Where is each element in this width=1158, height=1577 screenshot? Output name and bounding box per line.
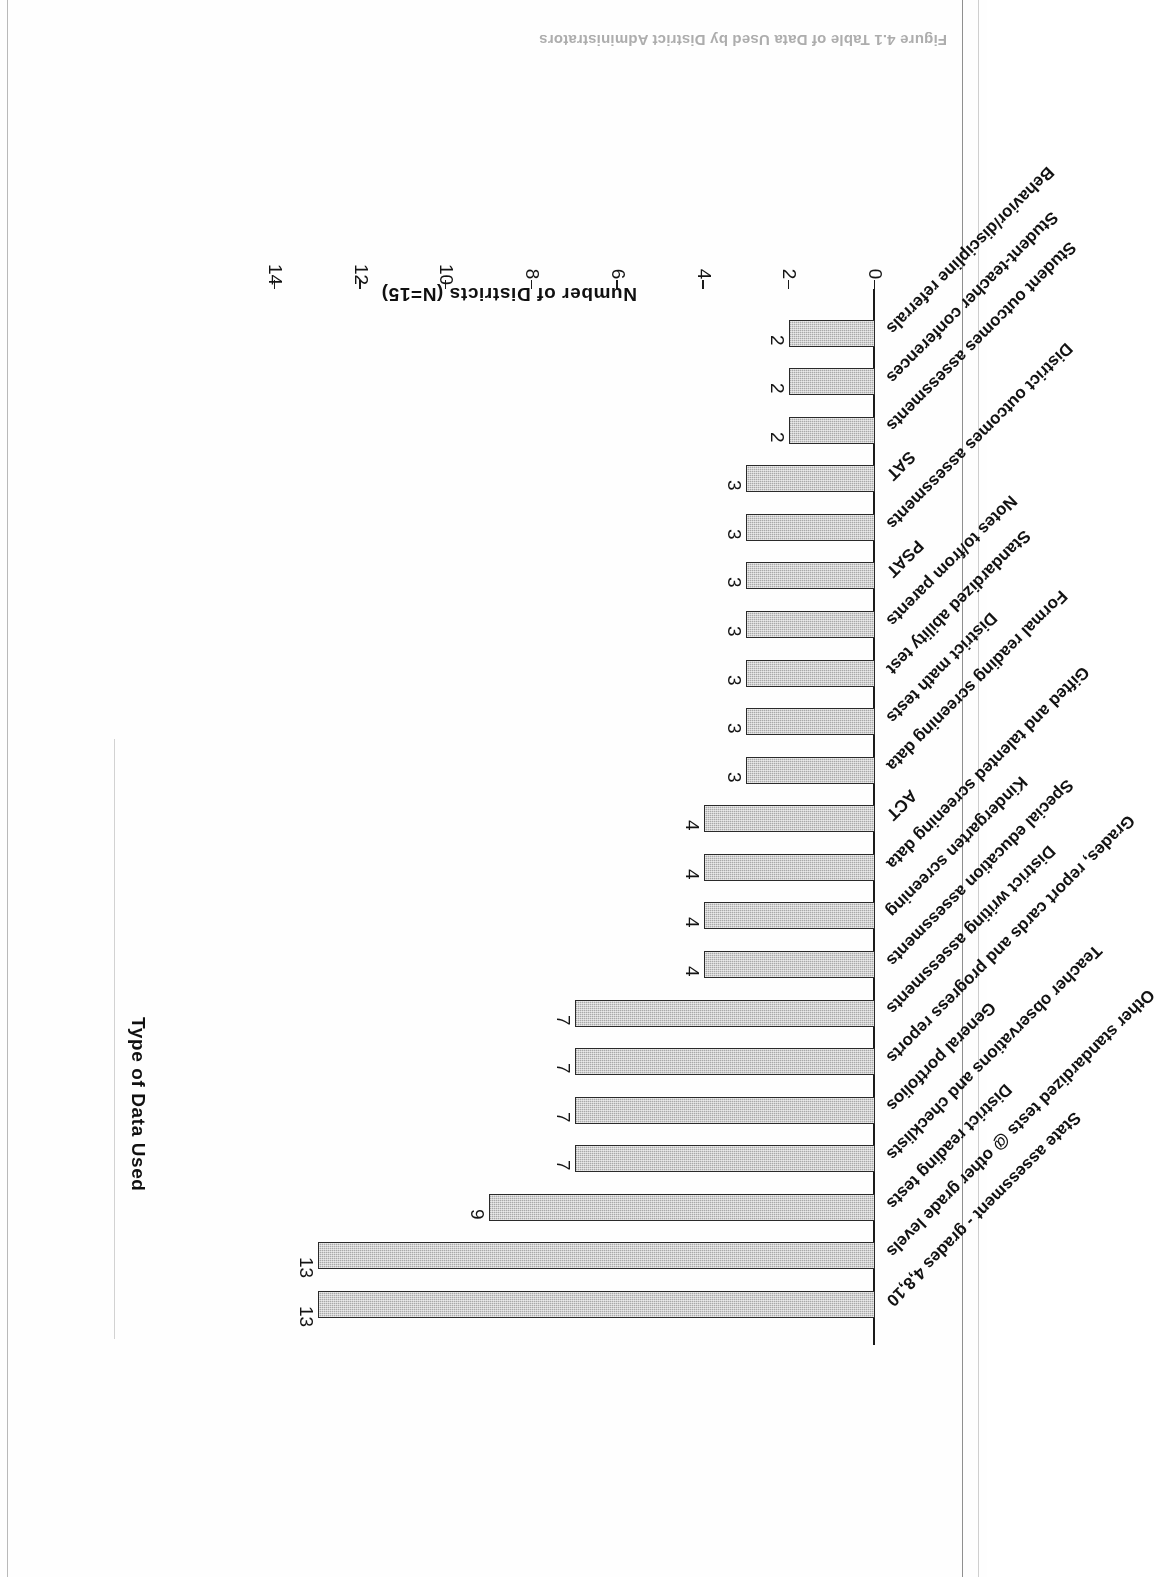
bar xyxy=(318,1242,875,1269)
bar xyxy=(704,902,875,929)
bar-value-label: 7 xyxy=(552,1112,574,1123)
bar-row: 2 xyxy=(275,356,875,405)
bar xyxy=(318,1291,875,1318)
tick-label: 14 xyxy=(264,264,286,284)
bar-value-label: 3 xyxy=(723,480,745,491)
bar xyxy=(789,417,875,444)
bar xyxy=(746,660,875,687)
bar-value-label: 7 xyxy=(552,1015,574,1026)
bar xyxy=(489,1194,875,1221)
bar xyxy=(704,805,875,832)
bar xyxy=(704,854,875,881)
tick-label: 10 xyxy=(435,264,457,284)
bar xyxy=(746,514,875,541)
bar-row: 2 xyxy=(275,307,875,356)
bar-value-label: 2 xyxy=(766,432,788,443)
bar-value-label: 3 xyxy=(723,723,745,734)
category-label: ACT xyxy=(882,785,921,824)
bar xyxy=(575,1145,875,1172)
plot-border-rule xyxy=(114,739,115,1339)
bar-value-label: 2 xyxy=(766,335,788,346)
bar-row: 3 xyxy=(275,598,875,647)
bar-value-label: 9 xyxy=(466,1209,488,1220)
bar xyxy=(789,368,875,395)
bar-row: 7 xyxy=(275,987,875,1036)
bar-value-label: 3 xyxy=(723,626,745,637)
bar-row: 3 xyxy=(275,744,875,793)
bar xyxy=(746,611,875,638)
bar-value-label: 3 xyxy=(723,675,745,686)
figure-caption: Figure 4.1 Table of Data Used by Distric… xyxy=(539,32,947,49)
bar-row: 3 xyxy=(275,696,875,745)
bar xyxy=(704,951,875,978)
bar xyxy=(789,320,875,347)
bar-row: 13 xyxy=(275,1230,875,1279)
tick-label: 12 xyxy=(350,264,372,284)
bar-row: 9 xyxy=(275,1181,875,1230)
bar-value-label: 7 xyxy=(552,1160,574,1171)
bar-row: 4 xyxy=(275,890,875,939)
bar-value-label: 3 xyxy=(723,577,745,588)
bar-row: 7 xyxy=(275,1133,875,1182)
bar-row: 4 xyxy=(275,841,875,890)
tick-label: 8 xyxy=(521,264,543,284)
bar-row: 3 xyxy=(275,647,875,696)
bar xyxy=(746,465,875,492)
bar-row: 2 xyxy=(275,404,875,453)
bar-value-label: 13 xyxy=(295,1257,317,1278)
category-label: PSAT xyxy=(882,536,927,581)
bar-value-label: 7 xyxy=(552,1063,574,1074)
bar-value-label: 4 xyxy=(681,869,703,880)
category-label: SAT xyxy=(882,447,919,484)
bar-row: 3 xyxy=(275,550,875,599)
bar-value-label: 3 xyxy=(723,772,745,783)
bar-row: 3 xyxy=(275,501,875,550)
value-axis-title: Number of Districts (N=15) xyxy=(299,283,719,305)
bar-row: 13 xyxy=(275,1278,875,1327)
bar-row: 4 xyxy=(275,793,875,842)
bar-row: 7 xyxy=(275,1036,875,1085)
tick-label: 0 xyxy=(864,264,886,284)
bar-chart-plot-area: 13139777744443333333222 02468101214 Stat… xyxy=(275,307,875,1327)
bar-value-label: 4 xyxy=(681,820,703,831)
bar xyxy=(575,1048,875,1075)
bar-value-label: 2 xyxy=(766,383,788,394)
bar-row: 4 xyxy=(275,938,875,987)
bar-value-label: 13 xyxy=(295,1306,317,1327)
bar-value-label: 4 xyxy=(681,966,703,977)
bar-value-label: 4 xyxy=(681,917,703,928)
bar-value-label: 3 xyxy=(723,529,745,540)
bar-row: 7 xyxy=(275,1084,875,1133)
tick-label: 6 xyxy=(607,264,629,284)
bar-row: 3 xyxy=(275,453,875,502)
category-axis-title: Type of Data Used xyxy=(127,1017,149,1192)
bar xyxy=(746,708,875,735)
category-label: Student outcomes assessments xyxy=(882,238,1080,436)
tick-label: 4 xyxy=(693,264,715,284)
tick-label: 2 xyxy=(778,264,800,284)
bar xyxy=(575,1000,875,1027)
bar xyxy=(575,1097,875,1124)
bar xyxy=(746,757,875,784)
bar xyxy=(746,562,875,589)
